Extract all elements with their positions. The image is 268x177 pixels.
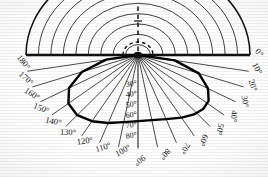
radial-tick-label-60: 60° [125, 110, 137, 120]
radial-tick-label-80: 80° [125, 130, 137, 140]
polar-net-svg: 0°10°20°30°40°50°60°70°80°90°100°110°120… [0, 0, 268, 177]
angular-tick-label-40: 40° [229, 110, 239, 122]
angular-tick-label-130: 130° [60, 127, 76, 138]
radial-tick-label-30: 30° [125, 79, 137, 89]
radial-tick-label-50: 50° [125, 99, 137, 109]
radial-tick-label-40: 40° [125, 89, 137, 99]
angular-tick-label-30: 30° [240, 95, 252, 108]
polar-net-figure: 0°10°20°30°40°50°60°70°80°90°100°110°120… [0, 0, 268, 177]
radial-tick-label-70: 70° [125, 120, 137, 130]
